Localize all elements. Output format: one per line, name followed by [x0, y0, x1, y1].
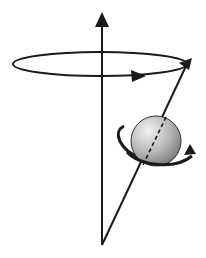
- spin-precession-diagram: [0, 0, 206, 258]
- precession-orbit-ellipse: [13, 52, 187, 76]
- arrowhead-up-icon: [95, 12, 109, 27]
- spin-arrowhead-icon: [184, 144, 196, 155]
- orbit-direction-arrow: [131, 70, 146, 82]
- vertical-axis-arrow: [95, 12, 109, 245]
